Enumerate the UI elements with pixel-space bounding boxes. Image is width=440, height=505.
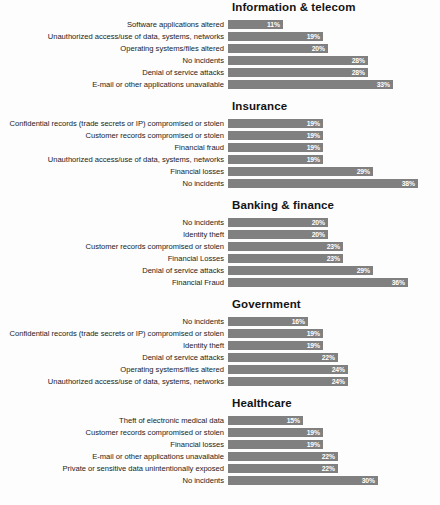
row-category-label: Denial of service attacks <box>0 266 228 275</box>
bar-value-label: 20% <box>312 218 328 227</box>
row-category-label: Financial Losses <box>0 254 228 263</box>
bar-value-label: 29% <box>357 167 373 176</box>
bar-value-label: 19% <box>307 131 323 140</box>
bar-track: 19% <box>228 339 440 351</box>
chart-panel: HealthcareTheft of electronic medical da… <box>0 396 440 486</box>
bar-track: 22% <box>228 462 440 474</box>
chart-row: Financial Fraud36% <box>0 276 440 288</box>
chart-panels: Information & telecomSoftware applicatio… <box>0 0 440 486</box>
bar-track: 20% <box>228 42 440 54</box>
bar-value-label: 23% <box>327 242 343 251</box>
row-category-label: Confidential records (trade secrets or I… <box>0 119 228 128</box>
bar: 22% <box>228 452 338 461</box>
chart-row: Private or sensitive data unintentionall… <box>0 462 440 474</box>
bar-track: 33% <box>228 78 440 90</box>
chart-row: No incidents16% <box>0 315 440 327</box>
bar: 33% <box>228 80 393 89</box>
row-category-label: Denial of service attacks <box>0 68 228 77</box>
bar: 29% <box>228 266 373 275</box>
chart-row: Customer records compromised or stolen19… <box>0 129 440 141</box>
chart-row: E-mail or other applications unavailable… <box>0 78 440 90</box>
bar: 22% <box>228 464 338 473</box>
chart-row: E-mail or other applications unavailable… <box>0 450 440 462</box>
panel-title: Healthcare <box>0 396 440 410</box>
row-category-label: E-mail or other applications unavailable <box>0 80 228 89</box>
bar-track: 19% <box>228 117 440 129</box>
row-category-label: Identity theft <box>0 230 228 239</box>
bar: 19% <box>228 32 323 41</box>
row-category-label: Denial of service attacks <box>0 353 228 362</box>
bar: 30% <box>228 476 378 485</box>
bar-value-label: 22% <box>322 464 338 473</box>
chart-row: Financial losses19% <box>0 438 440 450</box>
bar-track: 30% <box>228 474 440 486</box>
row-category-label: Customer records compromised or stolen <box>0 428 228 437</box>
bar: 16% <box>228 317 308 326</box>
bar-value-label: 15% <box>287 416 303 425</box>
row-category-label: E-mail or other applications unavailable <box>0 452 228 461</box>
panel-rows: No incidents20%Identity theft20%Customer… <box>0 216 440 288</box>
bar: 15% <box>228 416 303 425</box>
bar-track: 22% <box>228 450 440 462</box>
bar-value-label: 28% <box>352 56 368 65</box>
row-category-label: Financial fraud <box>0 143 228 152</box>
bar-value-label: 20% <box>312 44 328 53</box>
bar-track: 29% <box>228 264 440 276</box>
bar-value-label: 22% <box>322 452 338 461</box>
chart-row: Confidential records (trade secrets or I… <box>0 117 440 129</box>
bar: 28% <box>228 56 368 65</box>
row-category-label: Customer records compromised or stolen <box>0 242 228 251</box>
bar-track: 28% <box>228 66 440 78</box>
row-category-label: Private or sensitive data unintentionall… <box>0 464 228 473</box>
bar: 19% <box>228 329 323 338</box>
panel-rows: Software applications altered11%Unauthor… <box>0 18 440 90</box>
bar-value-label: 19% <box>307 440 323 449</box>
panel-title: Information & telecom <box>0 0 440 14</box>
bar: 23% <box>228 254 343 263</box>
chart-row: Unauthorized access/use of data, systems… <box>0 153 440 165</box>
bar-value-label: 19% <box>307 341 323 350</box>
bar-value-label: 22% <box>322 353 338 362</box>
row-category-label: Operating systems/files altered <box>0 44 228 53</box>
panel-rows: Theft of electronic medical data15%Custo… <box>0 414 440 486</box>
row-category-label: Theft of electronic medical data <box>0 416 228 425</box>
chart-row: Unauthorized access/use of data, systems… <box>0 375 440 387</box>
panel-title: Banking & finance <box>0 198 440 212</box>
row-category-label: Operating systems/files altered <box>0 365 228 374</box>
bar-track: 11% <box>228 18 440 30</box>
bar: 11% <box>228 20 283 29</box>
bar: 19% <box>228 440 323 449</box>
bar-value-label: 24% <box>332 365 348 374</box>
bar-track: 19% <box>228 327 440 339</box>
chart-row: No incidents38% <box>0 177 440 189</box>
bar-track: 20% <box>228 228 440 240</box>
bar-value-label: 11% <box>267 20 283 29</box>
chart-row: Denial of service attacks28% <box>0 66 440 78</box>
bar-value-label: 28% <box>352 68 368 77</box>
row-category-label: Confidential records (trade secrets or I… <box>0 329 228 338</box>
bar: 38% <box>228 179 418 188</box>
bar-value-label: 19% <box>307 32 323 41</box>
chart-row: Customer records compromised or stolen23… <box>0 240 440 252</box>
bar-track: 29% <box>228 165 440 177</box>
bar-track: 19% <box>228 141 440 153</box>
bar: 24% <box>228 377 348 386</box>
panel-title: Insurance <box>0 99 440 113</box>
bar-value-label: 36% <box>392 278 408 287</box>
row-category-label: Software applications altered <box>0 20 228 29</box>
bar-track: 24% <box>228 375 440 387</box>
bar-track: 16% <box>228 315 440 327</box>
bar-track: 22% <box>228 351 440 363</box>
bar-value-label: 20% <box>312 230 328 239</box>
chart-row: Customer records compromised or stolen19… <box>0 426 440 438</box>
chart-panel: GovernmentNo incidents16%Confidential re… <box>0 297 440 387</box>
bar-track: 19% <box>228 153 440 165</box>
row-category-label: No incidents <box>0 476 228 485</box>
bar: 20% <box>228 230 328 239</box>
panel-title: Government <box>0 297 440 311</box>
panel-rows: Confidential records (trade secrets or I… <box>0 117 440 189</box>
row-category-label: No incidents <box>0 56 228 65</box>
row-category-label: Financial losses <box>0 167 228 176</box>
chart-panel: Banking & financeNo incidents20%Identity… <box>0 198 440 288</box>
bar: 19% <box>228 119 323 128</box>
